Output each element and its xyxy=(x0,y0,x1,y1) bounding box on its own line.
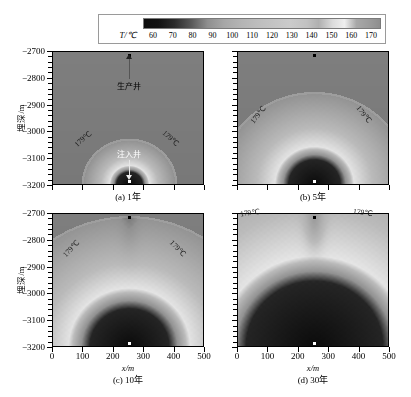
y-minor-tick xyxy=(233,126,237,127)
figure-root: T/℃ 60708090100110120130140150160170 生产井… xyxy=(0,0,411,397)
y-tick--3100 xyxy=(232,320,237,321)
y-tick--2900 xyxy=(232,105,237,106)
x-tick-label-300: 300 xyxy=(314,352,342,361)
y-minor-tick xyxy=(233,304,237,305)
injection-well-marker-d[interactable] xyxy=(313,342,316,345)
y-tick-label--3100: −3100 xyxy=(22,154,45,163)
colorbar-tick-150: 150 xyxy=(320,30,342,41)
x-tick-label-300: 300 xyxy=(129,352,157,361)
colorbar-tick-160: 160 xyxy=(340,30,362,41)
y-tick--2800 xyxy=(232,240,237,241)
x-tick-label-500: 500 xyxy=(190,352,218,361)
x-tick-label-100: 100 xyxy=(68,352,96,361)
temperature-field xyxy=(238,214,389,347)
y-minor-tick xyxy=(233,234,237,235)
y-minor-tick xyxy=(233,309,237,310)
panel-caption-c: (c) 10年 xyxy=(52,373,204,386)
y-minor-tick xyxy=(233,99,237,100)
y-tick-label--3100: −3100 xyxy=(22,316,45,325)
plot-area-d[interactable] xyxy=(237,213,389,347)
y-minor-tick xyxy=(233,272,237,273)
y-minor-tick xyxy=(233,110,237,111)
y-minor-tick xyxy=(233,121,237,122)
y-minor-tick xyxy=(233,180,237,181)
colorbar-tick-70: 70 xyxy=(162,30,184,41)
y-minor-tick xyxy=(233,331,237,332)
y-minor-tick xyxy=(233,174,237,175)
y-tick-label--3200: −3200 xyxy=(22,181,45,190)
y-minor-tick xyxy=(233,256,237,257)
y-tick--3000 xyxy=(232,131,237,132)
y-minor-tick xyxy=(233,326,237,327)
x-tick-500 xyxy=(204,185,205,190)
x-tick-label-100: 100 xyxy=(253,352,281,361)
x-tick-label-200: 200 xyxy=(284,352,312,361)
y-tick--2900 xyxy=(232,267,237,268)
x-tick-label-400: 400 xyxy=(345,352,373,361)
y-minor-tick xyxy=(233,142,237,143)
y-tick-label--2800: −2800 xyxy=(22,74,45,83)
colorbar-gradient-strip xyxy=(143,18,381,29)
y-minor-tick xyxy=(233,89,237,90)
x-tick-label-500: 500 xyxy=(375,352,403,361)
colorbar-tick-labels: 60708090100110120130140150160170 xyxy=(143,30,381,42)
y-tick-label--2800: −2800 xyxy=(22,236,45,245)
colorbar-tick-100: 100 xyxy=(221,30,243,41)
y-minor-tick xyxy=(233,299,237,300)
y-minor-tick xyxy=(233,315,237,316)
panel-caption-b: (b) 5年 xyxy=(237,190,389,203)
x-tick-label-0: 0 xyxy=(223,352,251,361)
panel-d: 0100200300400500x/m(d) 30年179℃179℃ xyxy=(237,213,389,347)
y-tick--3100 xyxy=(232,158,237,159)
panel-caption-a: (a) 1年 xyxy=(52,190,204,203)
y-tick-labels-a: −2700−2800−2900−3000−3100−3200 xyxy=(52,51,204,185)
y-tick--2700 xyxy=(232,51,237,52)
y-minor-tick xyxy=(233,137,237,138)
x-tick-500 xyxy=(389,185,390,190)
y-minor-tick xyxy=(233,62,237,63)
colorbar-tick-80: 80 xyxy=(182,30,204,41)
y-minor-tick xyxy=(233,277,237,278)
production-well-marker-d[interactable] xyxy=(313,216,316,219)
y-axis-title-a: 埋深/m xyxy=(14,94,26,142)
x-axis-title-d: x/m xyxy=(237,363,389,373)
panel-c: −2700−2800−2900−3000−3100−3200埋深/m010020… xyxy=(52,213,204,347)
y-minor-tick xyxy=(233,218,237,219)
colorbar-tick-130: 130 xyxy=(281,30,303,41)
colorbar-tick-90: 90 xyxy=(201,30,223,41)
y-minor-tick xyxy=(233,224,237,225)
colorbar-tick-110: 110 xyxy=(241,30,263,41)
panel-a: 生产井注入井−2700−2800−2900−3000−3100−3200埋深/m… xyxy=(52,51,204,185)
y-minor-tick xyxy=(233,229,237,230)
x-tick-label-400: 400 xyxy=(160,352,188,361)
y-tick-labels-c: −2700−2800−2900−3000−3100−3200 xyxy=(52,213,204,347)
y-minor-tick xyxy=(233,251,237,252)
y-minor-tick xyxy=(233,261,237,262)
y-tick--3000 xyxy=(232,293,237,294)
y-minor-tick xyxy=(233,283,237,284)
x-tick-label-0: 0 xyxy=(38,352,66,361)
temperature-colorbar: T/℃ 60708090100110120130140150160170 xyxy=(98,14,386,44)
y-tick--2700 xyxy=(232,213,237,214)
y-minor-tick xyxy=(233,56,237,57)
y-minor-tick xyxy=(233,288,237,289)
y-minor-tick xyxy=(233,336,237,337)
y-minor-tick xyxy=(233,147,237,148)
y-tick--2800 xyxy=(232,78,237,79)
production-well-marker-b[interactable] xyxy=(313,54,316,57)
panel-caption-d: (d) 30年 xyxy=(237,373,389,386)
y-tick-label--2700: −2700 xyxy=(22,47,45,56)
y-minor-tick xyxy=(233,94,237,95)
y-minor-tick xyxy=(233,72,237,73)
x-axis-title-c: x/m xyxy=(52,363,204,373)
injection-well-marker-b[interactable] xyxy=(313,180,316,183)
y-minor-tick xyxy=(233,83,237,84)
colorbar-tick-120: 120 xyxy=(261,30,283,41)
y-minor-tick xyxy=(233,67,237,68)
y-minor-tick xyxy=(233,169,237,170)
y-minor-tick xyxy=(233,153,237,154)
x-tick-label-200: 200 xyxy=(99,352,127,361)
panel-b: (b) 5年179℃179℃ xyxy=(237,51,389,185)
y-tick-label--2700: −2700 xyxy=(22,209,45,218)
colorbar-tick-60: 60 xyxy=(142,30,164,41)
